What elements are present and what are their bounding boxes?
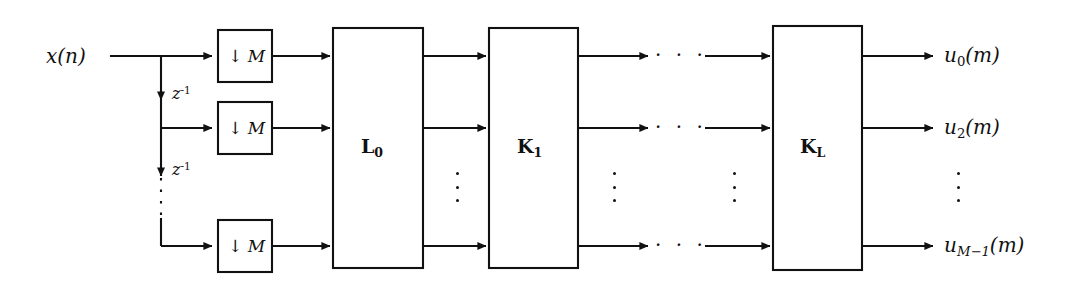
block-diagram-canvas: x(n) z-1 z-1 ↓ M ↓ M ↓ M L0 K1 KL u0(m) … <box>0 0 1065 294</box>
output-label-2: u2(m) <box>944 115 1000 141</box>
downsampler-label-3: ↓ M <box>228 236 265 256</box>
vertical-ellipsis-outputs <box>955 172 961 202</box>
output-label-3: uM−1(m) <box>944 233 1024 259</box>
vertical-ellipsis-after-K1 <box>611 172 617 202</box>
block-label-KL: KL <box>800 135 825 160</box>
vertical-ellipsis-after-L0 <box>454 172 460 202</box>
downsampler-label-1: ↓ M <box>228 46 265 66</box>
horizontal-ellipsis-row3: · · · <box>655 233 707 257</box>
output-label-1: u0(m) <box>944 43 1000 69</box>
input-label: x(n) <box>46 44 86 68</box>
block-label-K1: K1 <box>517 135 542 160</box>
block-label-L0: L0 <box>361 135 383 160</box>
vertical-ellipsis-before-KL <box>731 172 737 202</box>
downsampler-label-2: ↓ M <box>228 118 265 138</box>
horizontal-ellipsis-row1: · · · <box>655 43 707 67</box>
horizontal-ellipsis-row2: · · · <box>655 115 707 139</box>
delay-label-1: z-1 <box>172 84 191 103</box>
delay-label-2: z-1 <box>172 160 191 179</box>
